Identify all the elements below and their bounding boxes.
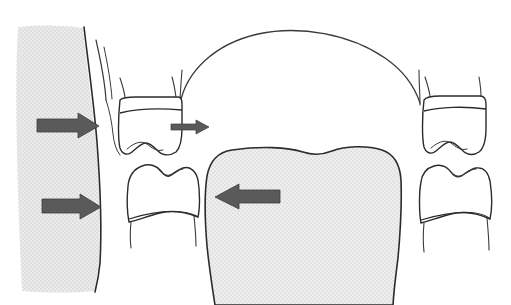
- diagram-canvas: [0, 0, 511, 305]
- tongue: [205, 147, 401, 305]
- tongue-body: [205, 147, 401, 305]
- oral-forces-diagram: [0, 0, 511, 305]
